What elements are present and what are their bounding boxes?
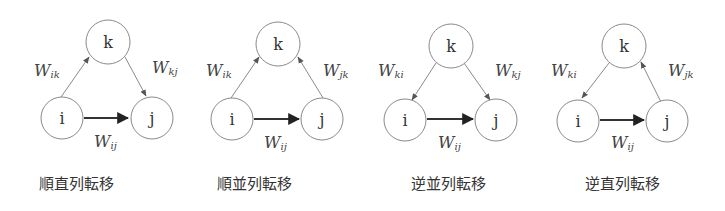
caption: 順並列転移 bbox=[217, 175, 292, 193]
node-j-label: j bbox=[318, 110, 325, 129]
node-k-label: k bbox=[103, 33, 113, 52]
diagram-forward-parallel: k i j Wik Wjk Wij 順並列転移 bbox=[206, 22, 349, 193]
weight-label-bottom: Wij bbox=[611, 133, 634, 152]
caption: 順直列転移 bbox=[39, 175, 114, 193]
edge-k-to-j bbox=[464, 63, 490, 100]
caption: 逆直列転移 bbox=[585, 175, 660, 193]
edge-k-to-i bbox=[412, 63, 436, 100]
caption: 逆並列転移 bbox=[411, 175, 486, 193]
node-i-label: i bbox=[402, 111, 407, 130]
diagram-reverse-parallel: k i j Wki Wkj Wij 逆並列転移 bbox=[378, 24, 521, 193]
node-j-label: j bbox=[148, 109, 155, 128]
weight-label-left: Wik bbox=[206, 61, 232, 80]
weight-label-bottom: Wij bbox=[94, 132, 117, 151]
weight-label-bottom: Wij bbox=[438, 133, 461, 152]
transition-diagrams: k i j Wik Wkj Wij 順直列転移 k i j Wik Wjk Wi… bbox=[0, 0, 725, 211]
edge-j-to-k bbox=[641, 62, 661, 102]
weight-label-right: Wjk bbox=[668, 61, 694, 80]
weight-label-left: Wik bbox=[34, 61, 60, 80]
diagram-reverse-serial: k i j Wki Wjk Wij 逆直列転移 bbox=[551, 24, 694, 193]
weight-label-left: Wki bbox=[378, 61, 404, 80]
edge-k-to-j bbox=[125, 57, 146, 96]
weight-label-right: Wkj bbox=[495, 61, 521, 80]
node-i-label: i bbox=[575, 112, 580, 131]
weight-label-right: Wjk bbox=[323, 61, 349, 80]
edge-i-to-k bbox=[231, 57, 259, 98]
node-j-label: j bbox=[492, 111, 499, 130]
node-k-label: k bbox=[273, 35, 283, 54]
diagram-forward-serial: k i j Wik Wkj Wij 順直列転移 bbox=[34, 20, 178, 193]
edge-j-to-k bbox=[298, 57, 323, 98]
edge-i-to-k bbox=[61, 57, 89, 97]
node-j-label: j bbox=[663, 112, 670, 131]
weight-label-left: Wki bbox=[551, 61, 577, 80]
node-k-label: k bbox=[619, 37, 629, 56]
node-k-label: k bbox=[446, 37, 456, 56]
weight-label-bottom: Wij bbox=[264, 133, 287, 152]
edge-k-to-i bbox=[582, 63, 609, 98]
node-i-label: i bbox=[59, 109, 64, 128]
weight-label-right: Wkj bbox=[152, 58, 178, 77]
node-i-label: i bbox=[229, 110, 234, 129]
